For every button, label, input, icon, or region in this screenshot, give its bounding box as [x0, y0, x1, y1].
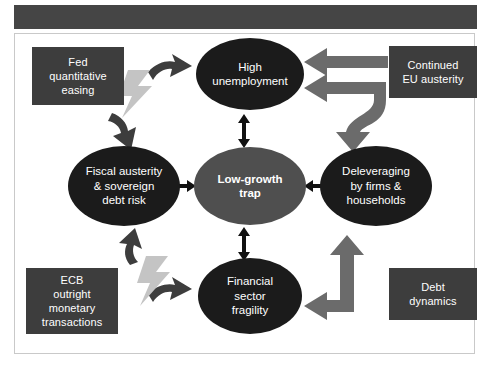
node-deleveraging-by-firms-households[interactable]: Deleveraging by firms & households	[320, 146, 432, 226]
node-label-line: trap	[217, 186, 282, 201]
node-label-line: Continued	[402, 58, 463, 72]
node-label-line: sector	[227, 289, 273, 304]
diagram-canvas: Fed quantitative easing Continued EU aus…	[0, 0, 491, 367]
node-label-line: & sovereign	[86, 179, 163, 194]
node-label-line: debt risk	[86, 193, 163, 208]
node-label-line: transactions	[42, 315, 103, 329]
node-label-line: Deleveraging	[342, 164, 410, 179]
node-label: ECB outright monetary transactions	[42, 273, 103, 329]
unemployment-trap-link	[238, 114, 250, 148]
node-fiscal-austerity-sovereign-debt-risk[interactable]: Fiscal austerity & sovereign debt risk	[68, 146, 180, 226]
fed-to-fiscal-arrow	[108, 113, 136, 150]
node-label-line: Financial	[227, 274, 273, 289]
node-high-unemployment[interactable]: High unemployment	[196, 38, 304, 110]
node-label: Continued EU austerity	[402, 58, 463, 86]
node-label-line: households	[342, 193, 410, 208]
node-label-line: EU austerity	[402, 72, 463, 86]
node-label: High unemployment	[212, 60, 287, 89]
node-label-line: Fiscal austerity	[86, 164, 163, 179]
node-label-line: easing	[49, 83, 106, 97]
node-label: Low-growth trap	[217, 172, 282, 201]
node-label-line: outright	[42, 287, 103, 301]
node-label: Debt dynamics	[409, 280, 456, 308]
node-label-line: Fed	[49, 55, 106, 69]
ecb-to-fiscal-arrow	[119, 228, 142, 265]
node-label-line: dynamics	[409, 294, 456, 308]
node-debt-dynamics[interactable]: Debt dynamics	[389, 268, 477, 320]
eu-austerity-branching-arrow	[304, 74, 386, 152]
node-label-line: High	[212, 60, 287, 75]
debt-dynamics-bent-arrow	[304, 235, 388, 320]
node-label-line: Debt	[409, 280, 456, 294]
node-low-growth-trap[interactable]: Low-growth trap	[194, 147, 306, 225]
node-label: Deleveraging by firms & households	[342, 164, 410, 208]
fed-to-unemployment-arrow	[148, 54, 192, 80]
node-label-line: by firms &	[342, 179, 410, 194]
node-label-line: monetary	[42, 301, 103, 315]
trap-fragility-link	[238, 227, 250, 261]
figure-stage: Fed quantitative easing Continued EU aus…	[0, 0, 491, 367]
node-label: Fed quantitative easing	[49, 55, 106, 97]
node-financial-sector-fragility[interactable]: Financial sector fragility	[198, 258, 302, 334]
node-continued-eu-austerity[interactable]: Continued EU austerity	[389, 46, 477, 98]
eu-austerity-to-unemployment-arrow	[304, 48, 388, 76]
node-ecb-outright-monetary-transactions[interactable]: ECB outright monetary transactions	[26, 268, 118, 334]
node-label-line: unemployment	[212, 74, 287, 89]
node-fed-quantitative-easing[interactable]: Fed quantitative easing	[32, 47, 124, 105]
node-label-line: fragility	[227, 303, 273, 318]
node-label: Financial sector fragility	[227, 274, 273, 318]
node-label-line: Low-growth	[217, 172, 282, 187]
node-label-line: ECB	[42, 273, 103, 287]
node-label-line: quantitative	[49, 69, 106, 83]
node-label: Fiscal austerity & sovereign debt risk	[86, 164, 163, 208]
